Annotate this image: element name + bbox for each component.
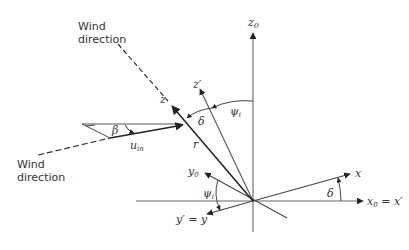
beta-arc bbox=[125, 125, 134, 133]
wind-direction-left-label: Winddirection bbox=[17, 158, 65, 184]
x0-label: x0 = x′ bbox=[367, 195, 403, 209]
z-prime-label: z′ bbox=[192, 78, 202, 91]
wind-direction-top-label: Winddirection bbox=[78, 20, 126, 46]
beta-triangle-tick bbox=[86, 125, 95, 126]
delta-right-label: δ bbox=[327, 187, 334, 200]
y0-label: y0 bbox=[187, 165, 199, 179]
y-prime-axis bbox=[207, 201, 253, 214]
x-axis bbox=[253, 174, 350, 201]
y-prime-label: y′ = y bbox=[175, 213, 208, 226]
x-label: x bbox=[355, 167, 362, 180]
z0-label: z0 bbox=[247, 16, 259, 30]
u-in-label: uin bbox=[130, 139, 144, 153]
psi-top-label: ψi bbox=[230, 105, 241, 119]
wind-direction-left-line bbox=[38, 138, 110, 155]
u-in-vector bbox=[110, 125, 183, 138]
z-axis bbox=[172, 106, 253, 201]
z-label: z bbox=[159, 93, 166, 106]
wind-coordinate-diagram: Winddirection Winddirection z0 z′ z ψi δ… bbox=[0, 0, 409, 250]
delta-right-arc bbox=[338, 178, 341, 201]
beta-label: β bbox=[111, 124, 118, 137]
psi-bottom-label: ψi bbox=[203, 187, 214, 201]
psi-bottom-arc bbox=[216, 180, 220, 210]
r-label: r bbox=[193, 138, 199, 151]
delta-top-label: δ bbox=[198, 115, 205, 128]
